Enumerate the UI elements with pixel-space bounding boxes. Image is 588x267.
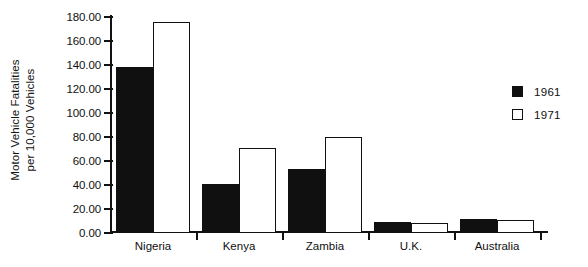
y-tick-label: 80.00: [73, 131, 101, 143]
x-tick: [196, 233, 198, 240]
legend-label-1961: 1961: [534, 86, 561, 98]
x-tick: [454, 233, 456, 240]
y-tick-label: 20.00: [73, 203, 101, 215]
bar-zambia-1971: [325, 137, 362, 233]
legend-item-1971: 1971: [512, 103, 561, 126]
y-tick-label: 140.00: [66, 59, 101, 71]
y-tick-label: 0.00: [79, 227, 101, 239]
bar-zambia-1961: [288, 169, 325, 233]
x-tick: [282, 233, 284, 240]
legend-swatch-1971: [512, 109, 523, 120]
legend-label-1971: 1971: [534, 109, 561, 121]
bar-uk-1961: [374, 222, 411, 233]
y-axis-title-line-2: per 10,000 Vehicles: [23, 59, 38, 180]
bar-australia-1971: [497, 220, 534, 233]
bar-kenya-1961: [202, 184, 239, 233]
x-tick-label: Australia: [475, 240, 520, 252]
y-tick-label: 40.00: [73, 179, 101, 191]
x-tick: [540, 233, 542, 240]
y-axis-title: Motor Vehicle Fatalities per 10,000 Vehi…: [0, 0, 46, 240]
legend: 19611971: [512, 80, 561, 126]
bar-group: Australia: [454, 219, 540, 233]
bar-group: Kenya: [196, 148, 282, 233]
bar-australia-1961: [460, 219, 497, 233]
legend-swatch-1961: [512, 86, 523, 97]
y-axis-title-line-1: Motor Vehicle Fatalities: [8, 59, 23, 180]
y-tick-label: 100.00: [66, 107, 101, 119]
bar-group: Zambia: [282, 137, 368, 233]
bar-chart: Motor Vehicle Fatalities per 10,000 Vehi…: [0, 0, 588, 267]
y-tick-label: 120.00: [66, 83, 101, 95]
bar-kenya-1971: [239, 148, 276, 233]
bar-nigeria-1971: [153, 22, 190, 233]
bar-nigeria-1961: [116, 67, 153, 233]
x-tick-label: Zambia: [306, 240, 344, 252]
y-tick-label: 60.00: [73, 155, 101, 167]
y-tick-label: 160.00: [66, 35, 101, 47]
y-tick-label: 180.00: [66, 11, 101, 23]
x-tick-label: Kenya: [223, 240, 256, 252]
x-tick-label: U.K.: [400, 240, 422, 252]
plot-area: 0.0020.0040.0060.0080.00100.00120.00140.…: [110, 17, 540, 233]
x-tick: [368, 233, 370, 240]
legend-item-1961: 1961: [512, 80, 561, 103]
y-tick: [104, 16, 113, 18]
bar-uk-1971: [411, 223, 448, 233]
x-tick-label: Nigeria: [135, 240, 171, 252]
bar-group: Nigeria: [110, 22, 196, 233]
bar-group: U.K.: [368, 222, 454, 233]
